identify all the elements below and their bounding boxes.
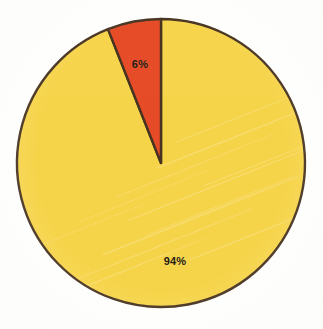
pie-chart-svg (0, 0, 323, 329)
pie-chart: 6% 94% (0, 0, 323, 329)
